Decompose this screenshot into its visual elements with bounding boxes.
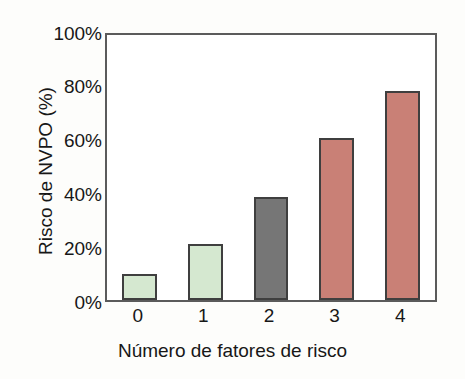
bar-category-1	[188, 244, 223, 300]
x-tick-label: 1	[183, 306, 223, 327]
y-tick-label: 40%	[30, 185, 102, 204]
x-tick-label: 2	[249, 306, 289, 327]
bar-category-0	[122, 274, 157, 301]
y-tick-label: 100%	[30, 24, 102, 43]
x-tick-label: 4	[380, 306, 420, 327]
y-tick-label: 20%	[30, 239, 102, 258]
x-axis-tick-labels: 0 1 2 3 4	[105, 306, 437, 336]
x-axis-title: Número de fatores de risco	[0, 340, 465, 362]
bars-layer	[107, 35, 435, 300]
x-tick-label: 3	[315, 306, 355, 327]
bar-category-2	[254, 197, 289, 300]
y-tick-label: 80%	[30, 77, 102, 96]
bar-category-4	[385, 91, 420, 300]
chart-figure: Risco de NVPO (%) 100% 80% 60% 40% 20% 0…	[0, 0, 465, 379]
bar-category-3	[319, 138, 354, 300]
y-tick-label: 0%	[30, 293, 102, 312]
x-tick-label: 0	[118, 306, 158, 327]
y-tick-label: 60%	[30, 131, 102, 150]
y-axis-tick-labels: 100% 80% 60% 40% 20% 0%	[28, 0, 102, 379]
plot-area	[105, 33, 437, 302]
